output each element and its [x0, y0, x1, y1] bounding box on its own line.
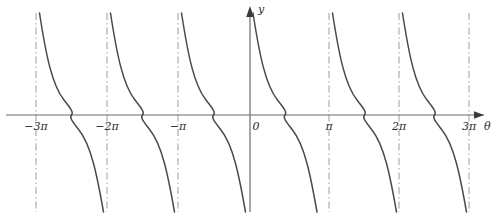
- cot-branch-6: [403, 13, 467, 212]
- cotangent-graph-figure: −3π −2π −π 0 π 2π 3π y θ: [0, 0, 500, 224]
- cot-branch-5: [333, 13, 397, 212]
- tick-label-neg-3pi: −3π: [24, 120, 47, 133]
- tick-label-neg-pi: −π: [170, 120, 186, 133]
- tick-label-neg-2pi: −2π: [95, 120, 118, 133]
- asymptote-group: [36, 13, 469, 212]
- tick-label-pi: π: [325, 120, 332, 133]
- cot-branch-1: [40, 13, 104, 212]
- tick-label-2pi: 2π: [392, 120, 406, 133]
- x-axis-arrow: [474, 111, 484, 119]
- y-axis: [246, 6, 254, 212]
- plot-canvas: [0, 0, 500, 224]
- tick-label-3pi: 3π: [462, 120, 476, 133]
- cotangent-curve-group: [40, 13, 467, 212]
- x-axis: [6, 111, 484, 119]
- cot-branch-4: [253, 13, 317, 212]
- cot-branch-2: [111, 13, 175, 212]
- tick-label-zero: 0: [253, 120, 260, 133]
- cot-branch-3: [182, 13, 246, 212]
- y-axis-label: y: [258, 3, 264, 16]
- theta-axis-label: θ: [484, 120, 491, 133]
